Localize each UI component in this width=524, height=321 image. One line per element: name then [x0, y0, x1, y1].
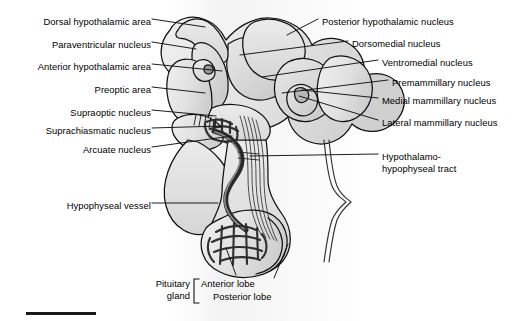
label-premammillary-nucleus: Premammillary nucleus	[392, 77, 490, 89]
label-medial-mammillary-nucleus: Medial mammillary nucleus	[382, 95, 496, 107]
label-pituitary-gland-line1: Pituitary	[110, 278, 190, 290]
label-hypophyseal-vessel: Hypophyseal vessel	[0, 200, 151, 212]
label-supraoptic-nucleus: Supraoptic nucleus	[0, 107, 151, 119]
label-preoptic-area: Preoptic area	[0, 84, 151, 96]
label-posterior-lobe: Posterior lobe	[213, 291, 272, 303]
label-hypothalamo-hypophyseal-tract-line2: hypophyseal tract	[382, 163, 456, 175]
premammillary-nucleus-shape	[317, 56, 372, 122]
label-pituitary-gland-line2: gland	[110, 290, 190, 302]
label-dorsomedial-nucleus: Dorsomedial nucleus	[352, 38, 441, 50]
label-hypothalamo-hypophyseal-tract-line1: Hypothalamo-	[382, 151, 441, 163]
label-anterior-hypothalamic-area: Anterior hypothalamic area	[0, 61, 151, 73]
label-ventromedial-nucleus: Ventromedial nucleus	[382, 57, 473, 69]
label-posterior-hypothalamic-nucleus: Posterior hypothalamic nucleus	[322, 16, 454, 28]
label-lateral-mammillary-nucleus: Lateral mammillary nucleus	[382, 117, 497, 129]
label-suprachiasmatic-nucleus: Suprachiasmatic nucleus	[0, 125, 151, 137]
figure-container: Dorsal hypothalamic area Paraventricular…	[0, 0, 524, 321]
scale-bar	[26, 312, 96, 315]
label-paraventricular-nucleus: Paraventricular nucleus	[0, 39, 151, 51]
label-anterior-lobe: Anterior lobe	[201, 278, 255, 290]
label-dorsal-hypothalamic-area: Dorsal hypothalamic area	[0, 16, 151, 28]
label-arcuate-nucleus: Arcuate nucleus	[0, 144, 151, 156]
